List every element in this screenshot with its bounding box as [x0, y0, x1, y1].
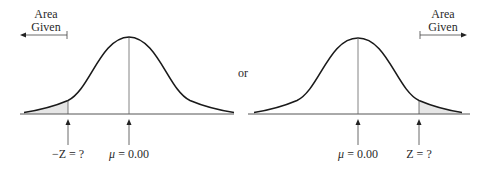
- or-connector: or: [233, 67, 253, 80]
- right-z-arrow-icon: [417, 119, 422, 145]
- right-z-label: Z = ?: [399, 148, 439, 161]
- left-area-label: Area Given: [26, 8, 66, 34]
- left-z-arrow-icon: [66, 119, 71, 145]
- left-mean-value: = 0.00: [115, 147, 149, 161]
- normal-curves-diagram: [0, 0, 483, 170]
- right-area-label: Area Given: [423, 8, 463, 34]
- left-normal-curve: [20, 31, 234, 145]
- right-mean-label: μ = 0.00: [328, 148, 388, 161]
- right-mean-arrow-icon: [356, 119, 361, 145]
- right-normal-curve: [248, 31, 470, 145]
- right-mean-value: = 0.00: [344, 147, 378, 161]
- left-mean-label: μ = 0.00: [99, 148, 159, 161]
- left-z-label: −Z = ?: [43, 148, 93, 161]
- left-mean-arrow-icon: [127, 119, 132, 145]
- right-area-label-line2: Given: [423, 21, 463, 34]
- left-area-label-line2: Given: [26, 21, 66, 34]
